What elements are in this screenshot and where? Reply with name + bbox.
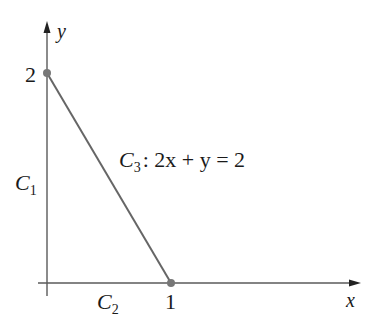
point-0-2 — [43, 69, 51, 77]
curve-c2-subscript: 2 — [112, 302, 119, 317]
curve-c1-label: C1 — [15, 170, 37, 198]
x-tick-label: 1 — [165, 289, 176, 314]
curve-c3-equation: : 2x + y = 2 — [143, 147, 245, 172]
y-tick-label: 2 — [25, 62, 36, 87]
curve-c3 — [47, 73, 171, 283]
x-axis-arrow-icon — [349, 280, 361, 287]
x-axis-label: x — [345, 289, 355, 311]
curve-c3-subscript: 3 — [134, 160, 141, 175]
y-axis-label: y — [55, 20, 66, 43]
curve-c1-subscript: 1 — [30, 183, 37, 198]
curve-c2-label: C2 — [97, 289, 119, 317]
curve-c3-label: C3: 2x + y = 2 — [119, 147, 245, 175]
curve-c2-name: C — [97, 289, 112, 314]
line-integral-diagram: y x 2 1 C1 C2 C3: 2x + y = 2 — [0, 0, 373, 330]
curve-c1-name: C — [15, 170, 30, 195]
curve-c3-name: C — [119, 147, 134, 172]
y-axis-arrow-icon — [44, 21, 51, 33]
point-1-0 — [167, 279, 175, 287]
